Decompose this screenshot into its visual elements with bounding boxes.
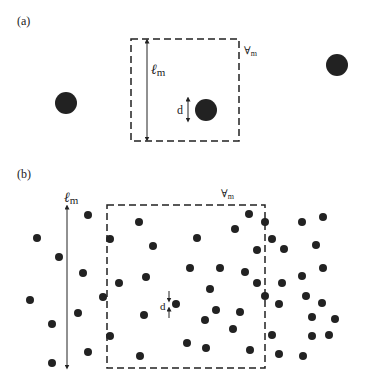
particle — [135, 218, 143, 226]
particle — [216, 264, 224, 272]
particle — [140, 311, 148, 319]
particle — [79, 269, 87, 277]
particle — [26, 296, 34, 304]
particle — [206, 285, 214, 293]
particles-a — [55, 54, 348, 121]
particles-b — [26, 210, 339, 367]
particle — [33, 234, 41, 242]
particle — [318, 299, 326, 307]
panel-a-label: (a) — [17, 14, 30, 28]
particle — [172, 300, 180, 308]
panel-b-label: (b) — [17, 167, 31, 181]
particle — [84, 348, 92, 356]
particle — [183, 339, 191, 347]
particle — [142, 273, 150, 281]
particle — [261, 292, 269, 300]
particle — [115, 279, 123, 287]
particle — [319, 213, 327, 221]
particle — [326, 54, 348, 76]
particle — [275, 300, 283, 308]
particle — [106, 235, 114, 243]
particle — [99, 293, 107, 301]
volume-label-a: ∀m — [244, 44, 258, 58]
particle — [193, 234, 201, 242]
particle — [308, 313, 316, 321]
length-label-a: ℓm — [151, 62, 166, 78]
particle — [106, 332, 114, 340]
panel-b: (b) ℓm ∀m d — [17, 167, 339, 368]
particle — [268, 331, 276, 339]
diameter-label-b: d — [160, 300, 166, 312]
particle — [212, 306, 220, 314]
particle — [331, 315, 339, 323]
particle — [149, 242, 157, 250]
particle — [55, 253, 63, 261]
particle — [202, 344, 210, 352]
particle — [231, 225, 239, 233]
particle — [298, 272, 306, 280]
particle — [275, 350, 283, 358]
particle — [319, 264, 327, 272]
particle — [74, 309, 82, 317]
particle — [229, 325, 237, 333]
particle — [253, 279, 261, 287]
particle — [278, 279, 286, 287]
panel-a: (a) ℓm ∀m d — [17, 14, 348, 141]
particle — [195, 99, 217, 121]
particle — [312, 241, 320, 249]
diameter-label-a: d — [177, 103, 183, 117]
particle — [299, 352, 307, 360]
particle — [308, 332, 316, 340]
length-label-b: ℓm — [64, 190, 79, 206]
particle — [245, 210, 253, 218]
particle — [136, 352, 144, 360]
particle — [280, 245, 288, 253]
diagram-canvas: (a) ℓm ∀m d (b) ℓm ∀m d — [0, 0, 370, 390]
particle — [261, 218, 269, 226]
particle — [186, 264, 194, 272]
volume-label-b: ∀m — [221, 187, 235, 201]
particle — [298, 218, 306, 226]
particle — [201, 316, 209, 324]
particle — [246, 346, 254, 354]
particle — [55, 92, 77, 114]
particle — [236, 308, 244, 316]
particle — [325, 331, 333, 339]
particle — [302, 292, 310, 300]
particle — [268, 235, 276, 243]
particle — [253, 246, 261, 254]
particle — [84, 211, 92, 219]
particle — [241, 268, 249, 276]
particle — [48, 320, 56, 328]
particle — [48, 359, 56, 367]
